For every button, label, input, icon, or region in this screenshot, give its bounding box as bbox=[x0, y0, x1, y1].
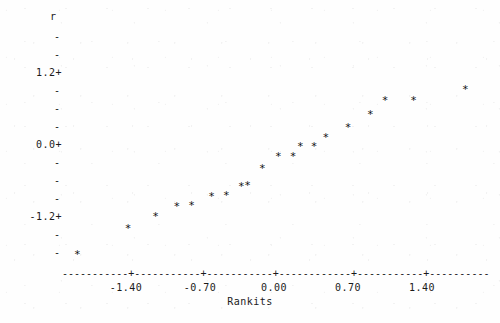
y-axis-minor-tick: - bbox=[54, 230, 61, 240]
data-point: * bbox=[152, 211, 159, 222]
data-point: * bbox=[367, 109, 374, 120]
y-axis-tick-label: 0.0+ bbox=[18, 140, 62, 150]
data-point: * bbox=[259, 163, 266, 174]
data-point: * bbox=[223, 190, 230, 201]
data-point: * bbox=[188, 200, 195, 211]
x-axis-tick-label: 0.70 bbox=[318, 283, 378, 293]
x-axis-line: -----------+-----------+-----------+----… bbox=[62, 269, 489, 279]
y-axis-tick-label: 1.2+ bbox=[18, 68, 62, 78]
y-axis-minor-tick: - bbox=[54, 86, 61, 96]
y-axis-minor-tick: - bbox=[54, 158, 61, 168]
y-axis-minor-tick: - bbox=[54, 176, 61, 186]
data-point: * bbox=[382, 95, 389, 106]
data-point: * bbox=[322, 132, 329, 143]
data-point: * bbox=[345, 122, 352, 133]
data-point: * bbox=[208, 191, 215, 202]
x-axis-tick-label: 0.00 bbox=[244, 283, 304, 293]
y-axis-title: r bbox=[50, 12, 57, 22]
y-axis-minor-tick: - bbox=[54, 104, 61, 114]
y-axis-minor-tick: - bbox=[54, 194, 61, 204]
x-axis-tick-label: 1.40 bbox=[392, 283, 452, 293]
data-point: * bbox=[275, 151, 282, 162]
data-point: * bbox=[311, 141, 318, 152]
data-point: * bbox=[290, 151, 297, 162]
x-axis-tick-label: -1.40 bbox=[96, 283, 156, 293]
data-point: * bbox=[173, 201, 180, 212]
y-axis-minor-tick: - bbox=[54, 32, 61, 42]
data-point: * bbox=[462, 84, 469, 95]
y-axis-minor-tick: - bbox=[54, 122, 61, 132]
data-point: * bbox=[125, 223, 132, 234]
y-axis-minor-tick: - bbox=[54, 50, 61, 60]
rankits-plot: r --1.2+---0.0+----1.2+-- **************… bbox=[0, 0, 500, 323]
y-axis-minor-tick: - bbox=[54, 248, 61, 258]
data-point: * bbox=[410, 95, 417, 106]
data-point: * bbox=[297, 141, 304, 152]
x-axis-tick-label: -0.70 bbox=[170, 283, 230, 293]
x-axis-title: Rankits bbox=[0, 297, 500, 307]
data-point: * bbox=[244, 180, 251, 191]
y-axis-tick-label: -1.2+ bbox=[18, 212, 62, 222]
data-point: * bbox=[74, 249, 81, 260]
